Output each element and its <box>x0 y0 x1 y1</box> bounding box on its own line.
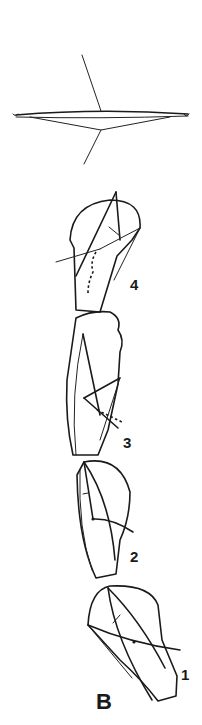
stage-4-drawing <box>56 192 140 312</box>
stage-3-label: 3 <box>123 434 131 451</box>
stage-2-drawing <box>77 461 133 578</box>
stage-3-drawing <box>67 312 124 455</box>
stage-4-label: 4 <box>130 276 138 293</box>
panel-label: B <box>96 689 112 715</box>
stage-1-drawing <box>88 586 180 701</box>
stage-1-label: 1 <box>181 666 189 683</box>
stage-2-label: 2 <box>130 548 138 565</box>
disc-side-view <box>13 55 189 164</box>
diagram-canvas <box>0 0 202 725</box>
